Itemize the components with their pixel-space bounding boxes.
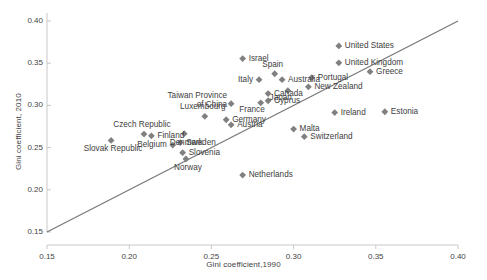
data-point-marker[interactable] (256, 76, 263, 83)
data-point-marker[interactable] (108, 137, 115, 144)
data-point-marker[interactable] (367, 68, 374, 75)
point-label: Luxembourg (180, 102, 226, 111)
data-point-marker[interactable] (223, 116, 230, 123)
point-label: Portugal (318, 73, 349, 82)
data-point-marker[interactable] (179, 149, 186, 156)
y-tick-label: 0.40 (17, 16, 43, 25)
data-point-marker[interactable] (201, 113, 208, 120)
point-label: Belgium (137, 140, 167, 149)
data-point-marker[interactable] (148, 132, 155, 139)
point-label: United Kingdom (345, 58, 403, 67)
point-label: Slovenia (189, 148, 220, 157)
scatter-chart: 0.150.200.250.300.350.400.150.200.250.30… (0, 0, 487, 280)
point-label: Czech Republic (113, 120, 170, 129)
axis-lines (47, 13, 458, 245)
point-label: Switzerland (310, 132, 352, 141)
point-label: Netherlands (249, 170, 293, 179)
point-label: Ireland (341, 108, 366, 117)
data-point-marker[interactable] (228, 100, 235, 107)
data-point-marker[interactable] (290, 126, 297, 133)
data-point-marker[interactable] (335, 59, 342, 66)
data-point-marker[interactable] (381, 108, 388, 115)
data-point-marker[interactable] (239, 55, 246, 62)
point-label: Slovak Republic (84, 144, 143, 153)
y-tick-label: 0.20 (17, 185, 43, 194)
data-point-marker[interactable] (331, 109, 338, 116)
point-label: New Zealand (314, 82, 362, 91)
point-label: Greece (376, 67, 403, 76)
point-label: Norway (174, 163, 202, 172)
point-label: Sweden (186, 138, 216, 147)
point-label: France (239, 105, 264, 114)
point-label: Spain (262, 60, 283, 69)
y-axis-title: Gini coefficient, 2010 (14, 93, 23, 170)
point-label: Cyprus (274, 96, 300, 105)
plot-area (0, 0, 487, 280)
data-point-marker[interactable] (335, 42, 342, 49)
point-label: Austria (237, 120, 262, 129)
data-point-marker[interactable] (239, 172, 246, 179)
data-point-marker[interactable] (301, 133, 308, 140)
y-tick-label: 0.15 (17, 227, 43, 236)
x-axis-title: Gini coefficient,1990 (0, 260, 487, 269)
point-label: Italy (238, 75, 253, 84)
point-label: United States (345, 41, 394, 50)
y-tick-label: 0.35 (17, 58, 43, 67)
data-point-marker[interactable] (305, 83, 312, 90)
point-label: Estonia (391, 107, 418, 116)
data-point-marker[interactable] (271, 70, 278, 77)
data-point-marker[interactable] (141, 131, 148, 138)
data-point-marker[interactable] (279, 76, 286, 83)
